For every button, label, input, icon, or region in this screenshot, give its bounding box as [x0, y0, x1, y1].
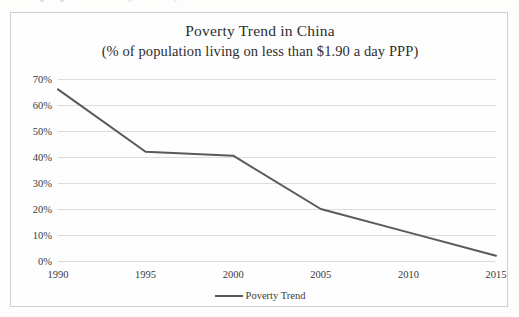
line-series-poverty-trend: [58, 89, 496, 255]
x-tick-2010: 2010: [398, 269, 419, 280]
x-tick-2000: 2000: [223, 269, 244, 280]
chart-title-block: Poverty Trend in China (% of population …: [11, 21, 509, 61]
chart-legend: Poverty Trend: [11, 290, 509, 301]
y-tick-60%: 60%: [33, 100, 52, 111]
legend-line-swatch: [215, 295, 243, 297]
y-tick-70%: 70%: [33, 74, 52, 85]
y-tick-0%: 0%: [38, 256, 52, 267]
x-tick-2015: 2015: [486, 269, 507, 280]
y-tick-40%: 40%: [33, 152, 52, 163]
series-layer: [58, 79, 496, 261]
x-tick-1990: 1990: [48, 269, 69, 280]
plot-area: 0%10%20%30%40%50%60%70% 1990199520002005…: [58, 79, 496, 261]
x-tick-2005: 2005: [310, 269, 331, 280]
y-tick-50%: 50%: [33, 126, 52, 137]
y-tick-20%: 20%: [33, 204, 52, 215]
chart-title: Poverty Trend in China: [11, 21, 509, 41]
y-tick-30%: 30%: [33, 178, 52, 189]
scan-artifact-strip: [0, 0, 519, 9]
legend-label-poverty-trend: Poverty Trend: [246, 290, 306, 301]
x-tick-1995: 1995: [135, 269, 156, 280]
gridline-y-0%: [58, 261, 496, 262]
chart-subtitle: (% of population living on less than $1.…: [11, 41, 509, 61]
y-tick-10%: 10%: [33, 230, 52, 241]
chart-frame: Poverty Trend in China (% of population …: [10, 12, 508, 307]
